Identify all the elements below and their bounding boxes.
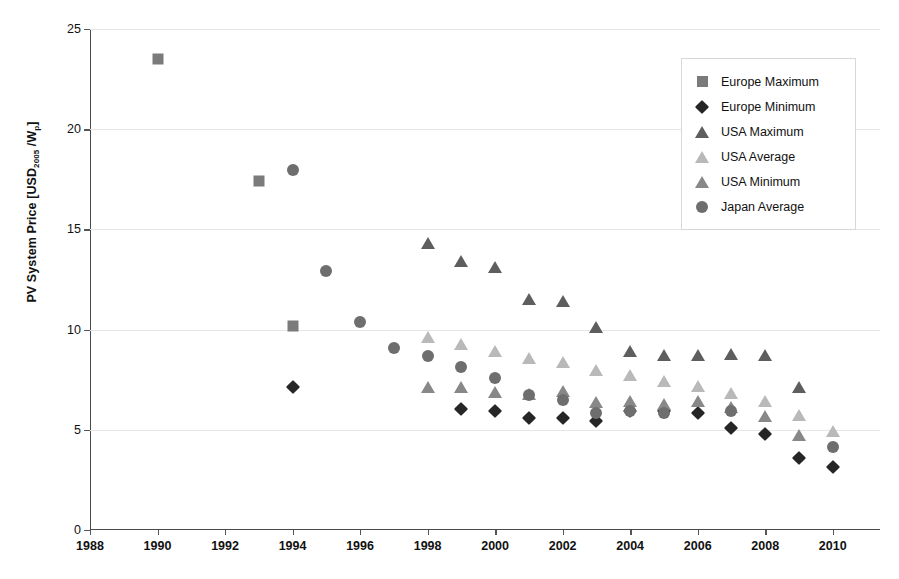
data-point bbox=[623, 369, 637, 381]
x-tick-mark bbox=[293, 530, 294, 535]
data-point bbox=[624, 405, 636, 417]
data-point bbox=[691, 380, 705, 392]
x-tick-mark bbox=[225, 530, 226, 535]
legend-circle-icon bbox=[694, 199, 710, 215]
data-point bbox=[422, 350, 434, 362]
triangle-marker bbox=[695, 126, 709, 138]
legend-triangle-icon bbox=[694, 174, 710, 190]
data-point bbox=[523, 389, 535, 401]
data-point bbox=[792, 381, 806, 393]
x-tick-mark bbox=[630, 530, 631, 535]
x-tick-mark bbox=[428, 530, 429, 535]
data-point bbox=[657, 349, 671, 361]
data-point bbox=[488, 345, 502, 357]
x-tick-label: 1996 bbox=[346, 539, 374, 553]
x-tick-label: 2002 bbox=[549, 539, 577, 553]
legend-item[interactable]: Europe Maximum bbox=[694, 69, 845, 94]
y-axis-title-mid: /W bbox=[25, 131, 39, 150]
data-point bbox=[556, 295, 570, 307]
legend-item-label: USA Minimum bbox=[721, 175, 800, 189]
data-point bbox=[454, 255, 468, 267]
data-point bbox=[724, 387, 738, 399]
data-point bbox=[623, 345, 637, 357]
y-tick-mark bbox=[84, 129, 90, 130]
data-point bbox=[589, 321, 603, 333]
y-tick-label: 25 bbox=[67, 22, 81, 36]
legend-item[interactable]: Japan Average bbox=[694, 194, 845, 219]
data-point bbox=[454, 381, 468, 393]
x-tick-mark bbox=[698, 530, 699, 535]
x-tick-label: 1992 bbox=[211, 539, 239, 553]
y-tick-label: 10 bbox=[67, 323, 81, 337]
y-axis-title-main: PV System Price [USD bbox=[25, 168, 39, 303]
legend-item[interactable]: Europe Minimum bbox=[694, 94, 845, 119]
legend-triangle-icon bbox=[694, 124, 710, 140]
triangle-marker bbox=[695, 151, 709, 163]
data-point bbox=[691, 395, 705, 407]
legend-item[interactable]: USA Minimum bbox=[694, 169, 845, 194]
data-point bbox=[489, 372, 501, 384]
data-point bbox=[421, 331, 435, 343]
legend-item-label: USA Average bbox=[721, 150, 795, 164]
data-point bbox=[724, 348, 738, 360]
data-point bbox=[421, 237, 435, 249]
y-axis-title-sub-year: 2005 bbox=[32, 150, 41, 168]
x-tick-label: 2000 bbox=[481, 539, 509, 553]
data-point bbox=[691, 349, 705, 361]
data-point bbox=[253, 176, 264, 187]
y-tick-label: 15 bbox=[67, 222, 81, 236]
y-tick-label: 0 bbox=[74, 523, 81, 537]
data-point bbox=[792, 429, 806, 441]
x-tick-mark bbox=[360, 530, 361, 535]
legend-triangle-icon bbox=[694, 149, 710, 165]
data-point bbox=[758, 349, 772, 361]
data-point bbox=[826, 425, 840, 437]
y-tick-mark bbox=[84, 29, 90, 30]
y-tick-mark bbox=[84, 430, 90, 431]
x-tick-label: 2010 bbox=[819, 539, 847, 553]
legend-square-icon bbox=[694, 74, 710, 90]
legend-item[interactable]: USA Average bbox=[694, 144, 845, 169]
data-point bbox=[488, 261, 502, 273]
data-point bbox=[152, 54, 163, 65]
data-point bbox=[522, 293, 536, 305]
data-point bbox=[287, 164, 299, 176]
data-point bbox=[657, 375, 671, 387]
data-point bbox=[557, 394, 569, 406]
legend-item-label: USA Maximum bbox=[721, 125, 804, 139]
data-point bbox=[556, 356, 570, 368]
data-point bbox=[758, 395, 772, 407]
x-tick-label: 1990 bbox=[144, 539, 172, 553]
x-tick-label: 1994 bbox=[279, 539, 307, 553]
data-point bbox=[792, 409, 806, 421]
data-point bbox=[590, 407, 602, 419]
data-point bbox=[725, 405, 737, 417]
legend-item-label: Europe Minimum bbox=[721, 100, 815, 114]
square-marker bbox=[697, 76, 708, 87]
x-tick-mark bbox=[563, 530, 564, 535]
chart-legend: Europe MaximumEurope MinimumUSA MaximumU… bbox=[681, 58, 856, 230]
data-point bbox=[589, 364, 603, 376]
gridline bbox=[90, 29, 880, 30]
data-point bbox=[354, 316, 366, 328]
data-point bbox=[455, 361, 467, 373]
data-point bbox=[658, 407, 670, 419]
y-tick-label: 5 bbox=[74, 423, 81, 437]
x-tick-mark bbox=[495, 530, 496, 535]
x-tick-label: 1998 bbox=[414, 539, 442, 553]
legend-item[interactable]: USA Maximum bbox=[694, 119, 845, 144]
triangle-marker bbox=[695, 176, 709, 188]
y-tick-label: 20 bbox=[67, 122, 81, 136]
data-point bbox=[758, 410, 772, 422]
circle-marker bbox=[696, 201, 708, 213]
data-point bbox=[388, 342, 400, 354]
x-tick-label: 1988 bbox=[76, 539, 104, 553]
x-tick-mark bbox=[765, 530, 766, 535]
y-axis-title: PV System Price [USD2005 /Wp] bbox=[25, 47, 39, 377]
data-point bbox=[287, 320, 298, 331]
x-tick-label: 2004 bbox=[616, 539, 644, 553]
chart-page: PV System Price [USD2005 /Wp] 0510152025… bbox=[0, 0, 899, 579]
y-tick-mark bbox=[84, 229, 90, 230]
legend-item-label: Japan Average bbox=[721, 200, 804, 214]
x-tick-label: 2008 bbox=[751, 539, 779, 553]
